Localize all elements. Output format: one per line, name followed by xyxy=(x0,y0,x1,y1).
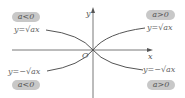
badge-a-positive-top: a>0 xyxy=(146,10,175,20)
y-axis-label: y xyxy=(86,10,91,18)
badge-a-positive-bottom: a>0 xyxy=(147,80,175,90)
x-axis-label: x xyxy=(148,53,153,61)
label-sqrt-ax-left: y=√ax xyxy=(14,25,40,35)
label-neg-sqrt-ax-right: y=−√ax xyxy=(143,65,175,75)
label-sqrt-ax-right: y=√ax xyxy=(147,23,173,33)
curve-sqrt-positive-a xyxy=(93,28,145,50)
label-neg-sqrt-ax-left: y=−√ax xyxy=(8,67,40,77)
y-axis-arrow-icon xyxy=(91,7,95,13)
origin-label: O xyxy=(82,52,89,60)
curve-sqrt-negative-a xyxy=(46,30,93,50)
badge-a-negative-top: a<0 xyxy=(12,12,40,22)
badge-a-negative-bottom: a<0 xyxy=(12,80,40,90)
curve-neg-sqrt-positive-a xyxy=(93,50,143,70)
